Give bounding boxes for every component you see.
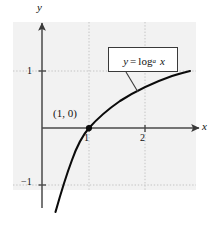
tick-label-x-1: 1 bbox=[84, 133, 89, 143]
equation-callout-text: y = loga x bbox=[109, 48, 179, 73]
tick-label-y-1: 1 bbox=[27, 66, 32, 76]
tick-label-x-2: 2 bbox=[140, 133, 145, 143]
point-marker-1-0 bbox=[86, 125, 92, 131]
equation-callout-box: y = loga x bbox=[108, 47, 178, 72]
logarithm-graph-figure: y x 1 2 1 −1 (1, 0) y = loga x bbox=[0, 0, 216, 226]
point-coordinate-label: (1, 0) bbox=[53, 108, 77, 119]
axis-label-y: y bbox=[37, 2, 42, 13]
equation-log-function: log bbox=[138, 55, 152, 67]
equation-argument: x bbox=[156, 55, 165, 67]
equation-equals: = bbox=[128, 55, 138, 67]
axis-label-x: x bbox=[202, 121, 207, 132]
plot-canvas bbox=[0, 0, 216, 226]
tick-label-y-neg-1: −1 bbox=[21, 177, 32, 187]
